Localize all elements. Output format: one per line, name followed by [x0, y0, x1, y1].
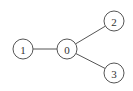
node-label: 1: [20, 44, 26, 56]
node-3: 3: [104, 63, 124, 83]
node-label: 2: [111, 16, 117, 28]
graph-diagram: 0123: [0, 0, 133, 91]
edge-0-3: [76, 54, 105, 69]
node-label: 0: [64, 44, 70, 56]
node-1: 1: [13, 39, 33, 59]
graph-canvas: 0123: [0, 0, 133, 91]
nodes-layer: 0123: [13, 11, 124, 83]
node-0: 0: [57, 39, 77, 59]
edge-0-2: [76, 26, 106, 44]
node-label: 3: [111, 68, 117, 80]
node-2: 2: [104, 11, 124, 31]
